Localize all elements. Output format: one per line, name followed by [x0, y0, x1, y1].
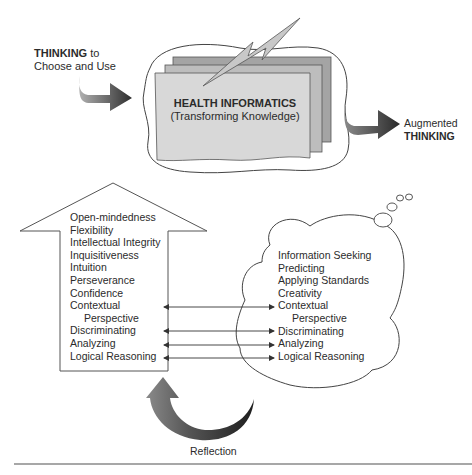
thought-bubble-medium — [387, 203, 397, 211]
left-trait-list: Open-mindedness Flexibility Intellectual… — [70, 211, 160, 362]
input-arrow-icon — [79, 76, 132, 111]
trait-item: Perseverance — [70, 274, 160, 287]
trait-item: Intuition — [70, 261, 160, 274]
skill-item: Logical Reasoning — [278, 350, 371, 363]
input-label-bold: THINKING — [34, 47, 87, 59]
skill-item: Perspective — [278, 312, 371, 325]
reflection-label: Reflection — [190, 445, 237, 458]
output-label: Augmented THINKING — [404, 117, 458, 143]
center-box-text: HEALTH INFORMATICS (Transforming Knowled… — [165, 97, 305, 123]
thought-bubble-tiny — [406, 194, 413, 200]
trait-item: Inquisitiveness — [70, 249, 160, 262]
trait-item: Perspective — [70, 312, 160, 325]
thought-bubble-small — [397, 195, 404, 201]
trait-item: Open-mindedness — [70, 211, 160, 224]
trait-item: Discriminating — [70, 324, 160, 337]
skill-item: Discriminating — [278, 325, 371, 338]
trait-item: Intellectual Integrity — [70, 236, 160, 249]
center-box-subtitle: (Transforming Knowledge) — [165, 110, 305, 123]
output-arrow-icon — [344, 105, 400, 139]
trait-item: Confidence — [70, 287, 160, 300]
skill-item: Information Seeking — [278, 249, 371, 262]
output-label-line2: THINKING — [404, 130, 458, 143]
trait-item: Analyzing — [70, 337, 160, 350]
skill-item: Predicting — [278, 262, 371, 275]
input-label-line2: Choose and Use — [34, 60, 116, 72]
skill-item: Creativity — [278, 287, 371, 300]
skill-item: Analyzing — [278, 337, 371, 350]
trait-item: Logical Reasoning — [70, 350, 160, 363]
trait-item: Flexibility — [70, 224, 160, 237]
reflection-arrow-icon — [146, 377, 254, 440]
right-skill-list: Information Seeking Predicting Applying … — [278, 249, 371, 362]
center-box-title: HEALTH INFORMATICS — [165, 97, 305, 110]
skill-item: Contextual — [278, 299, 371, 312]
input-label: THINKING to Choose and Use — [34, 47, 116, 73]
skill-item: Applying Standards — [278, 274, 371, 287]
trait-item: Contextual — [70, 299, 160, 312]
output-label-line1: Augmented — [404, 117, 458, 130]
input-label-rest: to — [87, 47, 99, 59]
thought-bubble-large — [374, 213, 392, 227]
